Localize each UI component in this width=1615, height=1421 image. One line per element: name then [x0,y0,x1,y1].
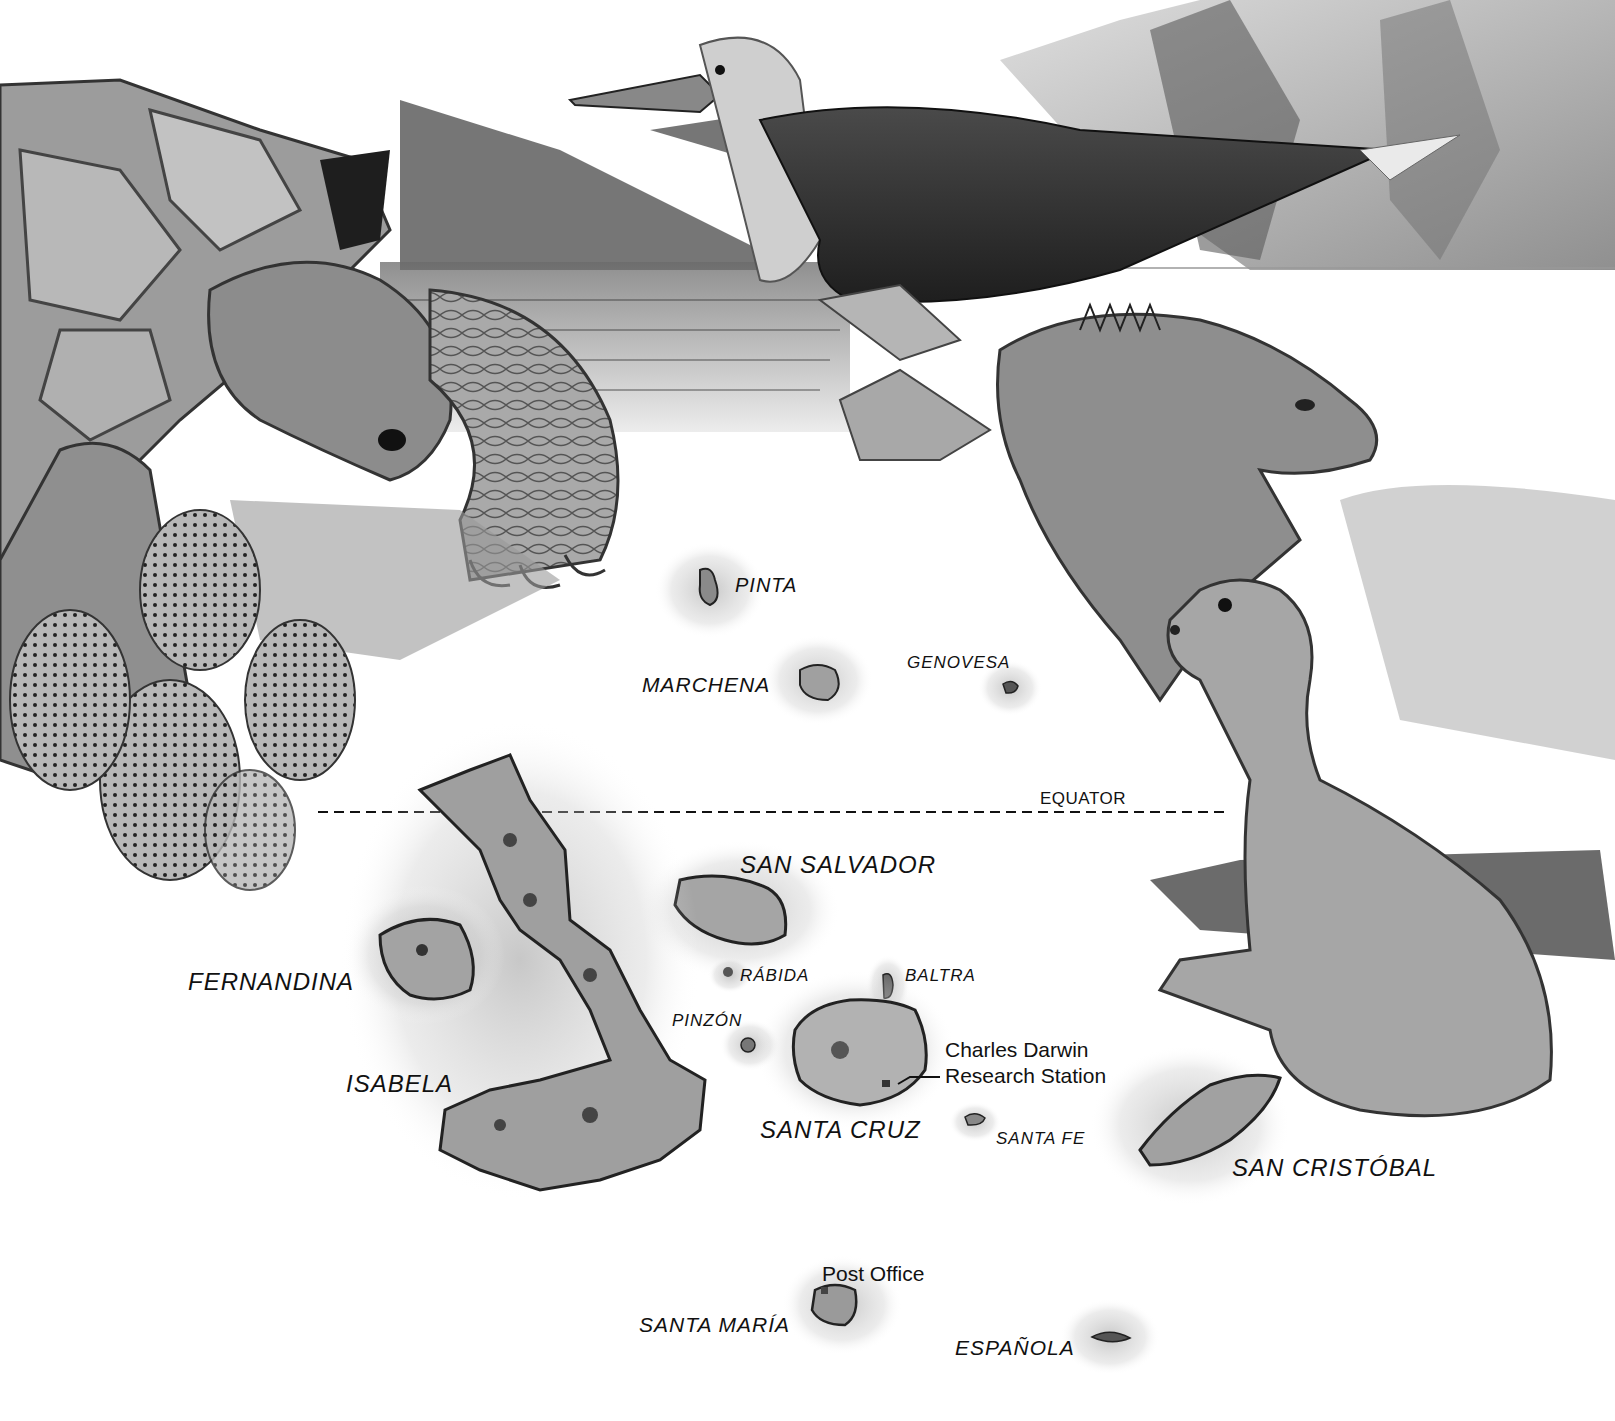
label-pinta: PINTA [735,575,797,595]
label-post-office: Post Office [822,1262,924,1286]
island-marchena [800,665,839,700]
label-research-station-line2: Research Station [945,1064,1106,1088]
island-santa-cruz [793,1000,926,1105]
research-station-marker [882,1080,890,1087]
label-rabida: RÁBIDA [740,967,809,984]
label-espanola: ESPAÑOLA [955,1337,1075,1358]
post-office-marker [821,1287,828,1294]
label-santa-fe: SANTA FE [996,1130,1085,1147]
label-isabela: ISABELA [346,1072,453,1096]
label-fernandina: FERNANDINA [188,970,354,994]
island-santa-maria [812,1285,856,1325]
map-illustration [0,0,1615,1421]
island-pinzon [741,1038,755,1052]
label-san-cristobal: SAN CRISTÓBAL [1232,1156,1437,1180]
island-genovesa [1003,681,1018,693]
galapagos-map: PINTA MARCHENA GENOVESA EQUATOR SAN SALV… [0,0,1615,1421]
island-rabida [723,967,733,977]
label-marchena: MARCHENA [642,674,770,695]
label-baltra: BALTRA [905,967,976,984]
label-san-salvador: SAN SALVADOR [740,853,936,877]
label-genovesa: GENOVESA [907,654,1010,671]
label-santa-maria: SANTA MARÍA [639,1314,790,1335]
label-pinzon: PINZÓN [672,1012,742,1029]
label-research-station-line1: Charles Darwin [945,1038,1089,1062]
label-santa-cruz: SANTA CRUZ [760,1118,921,1142]
label-equator: EQUATOR [1040,790,1126,807]
